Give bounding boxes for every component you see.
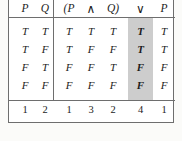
table-row: T	[59, 26, 79, 37]
header-formula-token-1: (P	[59, 3, 79, 15]
header-formula-token-5: P	[154, 3, 174, 15]
table-row-main-value: T	[128, 44, 153, 55]
table-row-main-value: F	[128, 80, 153, 91]
table-row: T	[59, 44, 79, 55]
order-number-main: 4	[128, 105, 153, 116]
table-row: F	[103, 80, 123, 91]
table-row: F	[59, 62, 79, 73]
table-row: F	[15, 80, 35, 91]
table-row: T	[103, 26, 123, 37]
footer-rule	[9, 100, 175, 101]
table-row: T	[15, 26, 35, 37]
order-number: 1	[59, 105, 79, 116]
table-row: T	[154, 26, 174, 37]
table-row: T	[154, 44, 174, 55]
table-row: T	[15, 44, 35, 55]
table-row: F	[154, 62, 174, 73]
header-rule	[9, 17, 175, 18]
table-row: F	[35, 44, 55, 55]
header-formula-token-3: Q)	[103, 3, 123, 15]
table-row: F	[154, 80, 174, 91]
table-row: F	[81, 80, 101, 91]
order-number: 2	[103, 105, 123, 116]
header-p: P	[15, 3, 35, 15]
table-row: T	[103, 62, 123, 73]
table-row-main-value: T	[128, 26, 153, 37]
table-row: F	[81, 62, 101, 73]
table-row: F	[35, 80, 55, 91]
table-row: F	[81, 44, 101, 55]
header-and-icon: ∧	[81, 3, 101, 15]
order-number: 1	[15, 105, 35, 116]
table-row: T	[81, 26, 101, 37]
table-row-main-value: F	[128, 62, 153, 73]
order-number: 2	[35, 105, 55, 116]
truth-table-figure: P Q (P ∧ Q) ∨ P T T T T T T T T F T F F …	[0, 0, 182, 141]
header-q: Q	[35, 3, 55, 15]
order-number: 1	[154, 105, 174, 116]
table-row: T	[35, 26, 55, 37]
order-number: 3	[81, 105, 101, 116]
header-or-icon: ∨	[128, 3, 153, 15]
table-row: F	[103, 44, 123, 55]
table-row: T	[35, 62, 55, 73]
table-row: F	[15, 62, 35, 73]
table-row: F	[59, 80, 79, 91]
truth-table: P Q (P ∧ Q) ∨ P T T T T T T T T F T F F …	[8, 0, 174, 123]
